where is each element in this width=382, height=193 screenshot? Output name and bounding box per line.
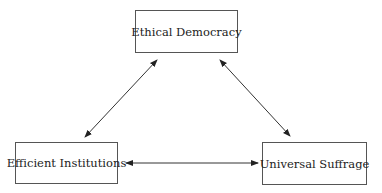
node-label: Efficient Institutions <box>7 156 127 170</box>
node-label: Universal Suffrage <box>260 157 370 171</box>
node-ethical-democracy: Ethical Democracy <box>135 10 238 53</box>
arrow-democracy-suffrage <box>220 60 290 136</box>
node-universal-suffrage: Universal Suffrage <box>262 142 367 185</box>
node-label: Ethical Democracy <box>131 25 241 39</box>
arrow-democracy-institutions <box>85 60 157 137</box>
node-efficient-institutions: Efficient Institutions <box>15 142 118 184</box>
